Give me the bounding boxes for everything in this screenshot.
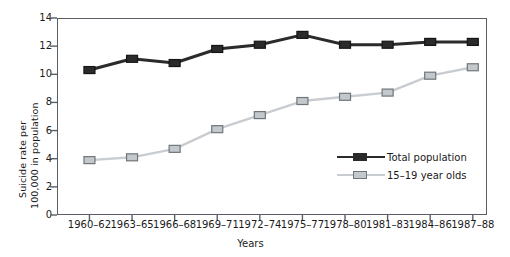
y-tick-label: 4 [32,154,52,164]
y-tick-label: 14 [32,13,52,23]
y-tick-label: 2 [32,182,52,192]
x-axis-title: Years [0,238,510,249]
legend-label-teen: 15–19 year olds [385,170,467,181]
x-tick-label: 1984–86 [409,220,452,230]
x-tick-label: 1960–62 [68,220,111,230]
legend-label-total-population: Total population [385,152,467,163]
x-tick-label: 1969–71 [196,220,239,230]
x-axis-title-text: Years [237,238,263,249]
y-tick-label: 8 [32,97,52,107]
x-tick-label: 1978–80 [323,220,366,230]
y-tick-label: 12 [32,41,52,51]
legend-swatch-teen [337,168,385,182]
y-tick-label: 10 [32,69,52,79]
x-tick-label: 1963–65 [110,220,153,230]
y-tick-label: 6 [32,126,52,136]
x-tick-label: 1966–68 [153,220,196,230]
suicide-rate-line-chart: Suicide rate per 100,000 in population 0… [0,0,510,257]
x-tick-label: 1972–74 [238,220,281,230]
y-axis-title-line-1: Suicide rate per [17,121,28,198]
x-tick-label: 1987–88 [451,220,494,230]
x-tick-label: 1981–83 [366,220,409,230]
x-axis-tick-labels: 1960–621963–651966–681969–711972–741975–… [0,220,510,234]
y-tick-label: 0 [32,210,52,220]
x-tick-label: 1975–77 [281,220,324,230]
legend-item-teen: 15–19 year olds [337,166,487,184]
chart-legend: Total population 15–19 year olds [337,148,487,184]
plot-area [57,18,487,215]
legend-swatch-total-population [337,150,385,164]
legend-item-total-population: Total population [337,148,487,166]
y-axis-tick-labels: 02468101214 [30,0,52,257]
